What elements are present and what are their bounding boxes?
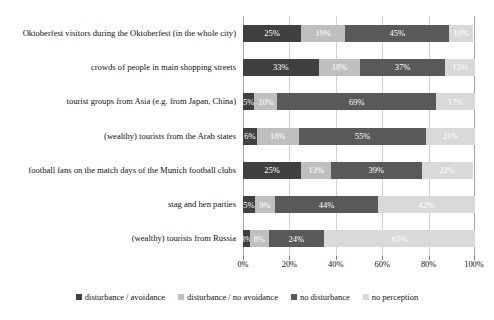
segment-value-label: 5% xyxy=(243,97,254,107)
x-tick-label: 100% xyxy=(464,260,484,269)
bar-segment: 5% xyxy=(243,93,254,110)
segment-value-label: 69% xyxy=(349,97,365,107)
segment-value-label: 19% xyxy=(315,28,331,38)
legend-item: disturbance / no avoidance xyxy=(178,292,278,302)
bar-segment: 21% xyxy=(426,128,475,145)
bar-row: 33%18%37%13% xyxy=(243,59,475,76)
segment-value-label: 37% xyxy=(395,62,411,72)
category-label: crowds of people in main shopping street… xyxy=(4,62,236,73)
bar-segment: 18% xyxy=(319,59,360,76)
bar-segment: 8% xyxy=(250,230,269,247)
bar-rows: 25%19%45%10%33%18%37%13%5%10%69%17%6%18%… xyxy=(243,16,475,256)
bar-row: 5%10%69%17% xyxy=(243,93,475,110)
segment-value-label: 9% xyxy=(259,200,270,210)
bar-row: 6%18%55%21% xyxy=(243,128,475,145)
segment-value-label: 33% xyxy=(273,62,289,72)
segment-value-label: 18% xyxy=(332,62,348,72)
legend-item: no disturbance xyxy=(291,292,350,302)
bar-segment: 25% xyxy=(243,162,301,179)
segment-value-label: 13% xyxy=(452,62,468,72)
legend: disturbance / avoidancedisturbance / no … xyxy=(0,292,494,302)
legend-label: disturbance / avoidance xyxy=(85,292,165,302)
segment-value-label: 25% xyxy=(264,165,280,175)
segment-value-label: 8% xyxy=(254,234,265,244)
segment-value-label: 45% xyxy=(389,28,405,38)
x-tick-label: 20% xyxy=(282,260,297,269)
bar-segment: 25% xyxy=(243,25,301,42)
legend-swatch-icon xyxy=(363,294,369,300)
segment-value-label: 42% xyxy=(418,200,434,210)
bar-segment: 10% xyxy=(449,25,472,42)
x-tick-label: 40% xyxy=(328,260,343,269)
bar-segment: 55% xyxy=(299,128,427,145)
legend-swatch-icon xyxy=(291,294,297,300)
segment-value-label: 65% xyxy=(392,234,408,244)
stacked-bar-chart: Oktoberfest visitors during the Oktoberf… xyxy=(0,0,494,320)
legend-swatch-icon xyxy=(76,294,82,300)
bar-segment: 39% xyxy=(331,162,421,179)
bar-segment: 6% xyxy=(243,128,257,145)
segment-value-label: 25% xyxy=(264,28,280,38)
bar-segment: 19% xyxy=(301,25,345,42)
segment-value-label: 22% xyxy=(439,165,455,175)
bar-segment: 5% xyxy=(243,196,255,213)
x-tick-label: 0% xyxy=(237,260,248,269)
x-tick-label: 60% xyxy=(375,260,390,269)
category-label: tourist groups from Asia (e.g. from Japa… xyxy=(4,96,236,107)
segment-value-label: 10% xyxy=(453,28,469,38)
segment-value-label: 17% xyxy=(448,97,464,107)
bar-row: 5%9%44%42% xyxy=(243,196,475,213)
legend-label: disturbance / no avoidance xyxy=(187,292,278,302)
legend-item: disturbance / avoidance xyxy=(76,292,165,302)
segment-value-label: 13% xyxy=(308,165,324,175)
segment-value-label: 21% xyxy=(443,131,459,141)
segment-value-label: 3% xyxy=(243,234,250,244)
x-axis: 0%20%40%60%80%100% xyxy=(243,256,475,272)
x-tick-label: 80% xyxy=(421,260,436,269)
segment-value-label: 39% xyxy=(369,165,385,175)
bar-segment: 13% xyxy=(445,59,475,76)
category-label: (wealthy) tourists from the Arab states xyxy=(4,131,236,142)
category-label: football fans on the match days of the M… xyxy=(4,165,236,176)
bar-segment: 13% xyxy=(301,162,331,179)
legend-item: no perception xyxy=(363,292,419,302)
segment-value-label: 18% xyxy=(270,131,286,141)
category-label: Oktoberfest visitors during the Oktoberf… xyxy=(4,28,236,39)
bar-segment: 3% xyxy=(243,230,250,247)
bar-row: 25%19%45%10% xyxy=(243,25,475,42)
bar-segment: 18% xyxy=(257,128,299,145)
segment-value-label: 5% xyxy=(243,200,254,210)
bar-segment: 42% xyxy=(378,196,475,213)
bar-segment: 9% xyxy=(255,196,276,213)
bar-segment: 10% xyxy=(254,93,277,110)
segment-value-label: 55% xyxy=(355,131,371,141)
plot-area: 25%19%45%10%33%18%37%13%5%10%69%17%6%18%… xyxy=(243,16,475,256)
bar-segment: 22% xyxy=(422,162,473,179)
segment-value-label: 6% xyxy=(244,131,255,141)
bar-segment: 24% xyxy=(269,230,325,247)
bar-row: 25%13%39%22% xyxy=(243,162,475,179)
bar-segment: 33% xyxy=(243,59,319,76)
bar-segment: 44% xyxy=(275,196,377,213)
category-label: (wealthy) tourists from Russia xyxy=(4,233,236,244)
category-axis-labels: Oktoberfest visitors during the Oktoberf… xyxy=(4,16,240,256)
legend-label: no disturbance xyxy=(300,292,350,302)
bar-segment: 65% xyxy=(324,230,475,247)
legend-swatch-icon xyxy=(178,294,184,300)
category-label: stag and hen parties xyxy=(4,199,236,210)
bar-segment: 17% xyxy=(436,93,475,110)
segment-value-label: 10% xyxy=(258,97,274,107)
bar-segment: 37% xyxy=(360,59,445,76)
bar-segment: 45% xyxy=(345,25,449,42)
legend-label: no perception xyxy=(372,292,419,302)
bar-segment: 69% xyxy=(277,93,436,110)
bar-row: 3%8%24%65% xyxy=(243,230,475,247)
segment-value-label: 44% xyxy=(319,200,335,210)
segment-value-label: 24% xyxy=(289,234,305,244)
